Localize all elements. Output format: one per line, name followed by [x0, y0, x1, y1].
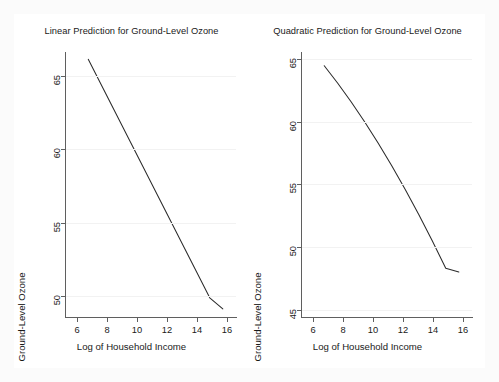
- y-tick-label: 55: [52, 222, 62, 252]
- gridline-y: [65, 76, 236, 77]
- y-axis-line: [65, 52, 66, 318]
- x-tick-label: 12: [152, 325, 182, 335]
- x-axis-title-quadratic: Log of Household Income: [250, 341, 485, 352]
- x-tick: [313, 318, 314, 322]
- x-axis-line: [65, 317, 237, 318]
- x-tick-label: 10: [122, 325, 152, 335]
- x-tick: [343, 318, 344, 322]
- x-tick: [433, 318, 434, 322]
- y-tick-label: 65: [52, 75, 62, 105]
- x-tick: [167, 318, 168, 322]
- x-tick-label: 12: [388, 325, 418, 335]
- quadratic-prediction-curve-layer: [250, 14, 485, 368]
- x-tick-label: 8: [92, 325, 122, 335]
- y-tick-label: 45: [288, 309, 298, 339]
- gridline-y: [301, 122, 472, 123]
- y-axis-line: [301, 52, 302, 318]
- y-tick-label: 50: [288, 246, 298, 276]
- x-tick: [107, 318, 108, 322]
- x-tick: [463, 318, 464, 322]
- x-tick: [403, 318, 404, 322]
- linear-prediction-line: [88, 59, 223, 309]
- y-axis-title-linear: Ground-Level Ozone: [16, 184, 27, 382]
- gridline-y: [301, 310, 472, 311]
- gridline-y: [65, 296, 236, 297]
- quadratic-prediction-line: [324, 66, 459, 272]
- x-tick-label: 8: [328, 325, 358, 335]
- x-tick-label: 14: [182, 325, 212, 335]
- y-tick-label: 60: [288, 121, 298, 151]
- y-tick-label: 50: [52, 295, 62, 325]
- x-tick: [77, 318, 78, 322]
- x-tick: [373, 318, 374, 322]
- x-tick-label: 10: [358, 325, 388, 335]
- gridline-y: [65, 149, 236, 150]
- x-tick: [197, 318, 198, 322]
- x-tick-label: 6: [62, 325, 92, 335]
- gridline-y: [65, 223, 236, 224]
- x-tick-label: 14: [418, 325, 448, 335]
- x-tick: [137, 318, 138, 322]
- graph-region: Linear Prediction for Ground-Level Ozone…: [14, 14, 485, 368]
- x-axis-line: [301, 317, 473, 318]
- gridline-y: [301, 184, 472, 185]
- x-axis-title-linear: Log of Household Income: [14, 341, 249, 352]
- y-tick-label: 65: [288, 58, 298, 88]
- figure-canvas: Linear Prediction for Ground-Level Ozone…: [0, 0, 499, 382]
- x-tick-label: 6: [298, 325, 328, 335]
- y-tick-label: 60: [52, 148, 62, 178]
- panel-quadratic-prediction: Quadratic Prediction for Ground-Level Oz…: [250, 14, 485, 368]
- gridline-y: [301, 59, 472, 60]
- y-axis-title-quadratic: Ground-Level Ozone: [252, 184, 263, 382]
- x-tick-label: 16: [448, 325, 478, 335]
- linear-prediction-curve-layer: [14, 14, 249, 368]
- panel-linear-prediction: Linear Prediction for Ground-Level Ozone…: [14, 14, 249, 368]
- x-tick-label: 16: [212, 325, 242, 335]
- gridline-y: [301, 247, 472, 248]
- y-tick-label: 55: [288, 183, 298, 213]
- x-tick: [227, 318, 228, 322]
